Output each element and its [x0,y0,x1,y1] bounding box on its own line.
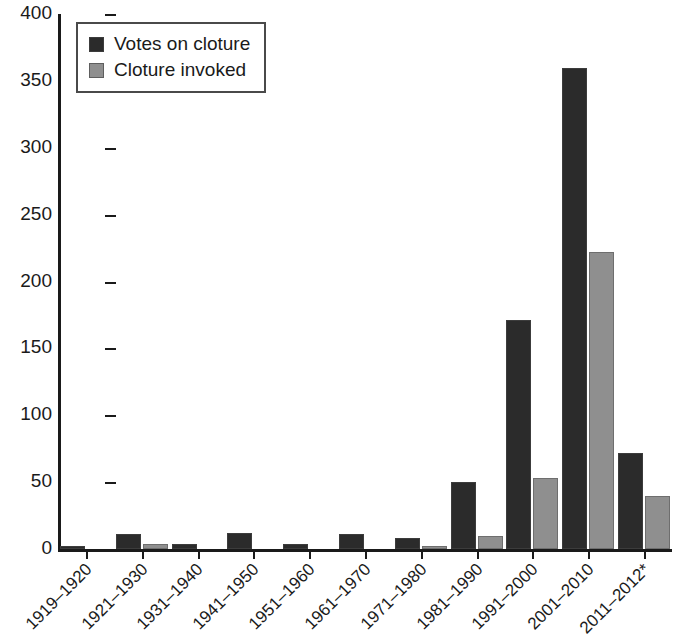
legend-label: Votes on cloture [114,34,250,54]
legend-swatch-dark-icon [89,37,104,52]
y-tick-label: 50 [31,471,52,491]
bar [506,320,531,549]
y-tick-label: 150 [20,337,52,357]
y-tick-mark [105,549,116,551]
y-tick-label: 100 [20,404,52,424]
x-tick-mark [198,552,200,559]
bar-group [562,14,614,549]
y-tick-label: 250 [20,204,52,224]
bar [478,536,503,549]
bar [451,482,476,549]
bar [533,478,558,549]
chart-legend: Votes on cloture Cloture invoked [76,22,266,93]
x-tick-mark [644,552,646,559]
x-tick-mark [588,552,590,559]
bar [395,538,420,549]
bar [645,496,670,550]
legend-item-cloture-invoked: Cloture invoked [89,57,250,83]
y-tick-label: 350 [20,70,52,90]
legend-label: Cloture invoked [114,60,246,80]
y-tick-label: 200 [20,271,52,291]
x-tick-mark [477,552,479,559]
bar-group [172,14,224,549]
x-tick-mark [253,552,255,559]
legend-item-votes-on-cloture: Votes on cloture [89,31,250,57]
bar [618,453,643,549]
y-tick-label: 0 [41,538,52,558]
x-tick-mark [532,552,534,559]
bar [172,544,197,549]
bar-group [618,14,670,549]
bar-group [506,14,558,549]
bar-group [339,14,391,549]
y-tick-label: 400 [20,3,52,23]
bar-group [451,14,503,549]
x-tick-mark [86,552,88,559]
bar-group [395,14,447,549]
bar [562,68,587,550]
legend-swatch-light-icon [89,63,104,78]
x-tick-mark [142,552,144,559]
plot-area: 050100150200250300350400 [58,14,672,549]
bar-group [60,14,112,549]
bar [60,546,85,549]
bar [143,544,168,549]
x-tick-mark [365,552,367,559]
bar [283,544,308,549]
bar [227,533,252,549]
bar [339,534,364,549]
bar [422,546,447,549]
x-tick-mark [309,552,311,559]
bar [589,252,614,549]
bar-chart: 050100150200250300350400 1919–19201921–1… [0,0,676,644]
y-tick-label: 300 [20,137,52,157]
bar [116,534,141,549]
bar-group [283,14,335,549]
bar-group [227,14,279,549]
x-tick-mark [421,552,423,559]
bar-group [116,14,168,549]
